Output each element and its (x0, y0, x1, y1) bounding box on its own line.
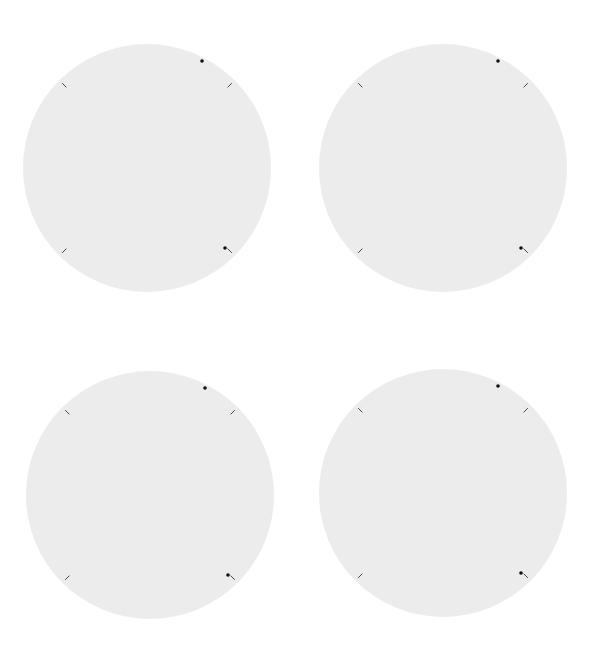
skyplot-panel-a: 10°90°60°30°0° Day 306 N S W E 45° 315° … (23, 44, 271, 292)
skyplot-panel-c: 10°90°60°30°0° Day 308 N S W E 45° 315° … (26, 371, 274, 619)
skyplot-panel-d: 10°90°60°30°0° Day 309 N S W E 45° 315° … (319, 369, 567, 617)
satellite-2-marker (519, 246, 523, 250)
skyplot-figure: 10°90°60°30°0° Day 306 N S W E 45° 315° … (0, 0, 596, 665)
horizon-band: 10°90°60°30°0° Day 307 N S W E 45° 315° … (319, 44, 567, 292)
satellite-2-marker (226, 573, 230, 577)
satellite-2-marker (519, 571, 523, 575)
horizon-band: 10°90°60°30°0° Day 309 N S W E 45° 315° … (319, 369, 567, 617)
figure: 10°90°60°30°0° Day 306 N S W E 45° 315° … (0, 0, 596, 665)
horizon-band: 10°90°60°30°0° Day 308 N S W E 45° 315° … (26, 371, 274, 619)
satellite-2-marker (223, 246, 227, 250)
satellite-9-marker (203, 386, 207, 390)
satellite-9-marker (496, 384, 500, 388)
horizon-band: 10°90°60°30°0° Day 306 N S W E 45° 315° … (23, 44, 271, 292)
skyplot-panel-b: 10°90°60°30°0° Day 307 N S W E 45° 315° … (319, 44, 567, 292)
satellite-9-marker (496, 59, 500, 63)
satellite-9-marker (200, 59, 204, 63)
